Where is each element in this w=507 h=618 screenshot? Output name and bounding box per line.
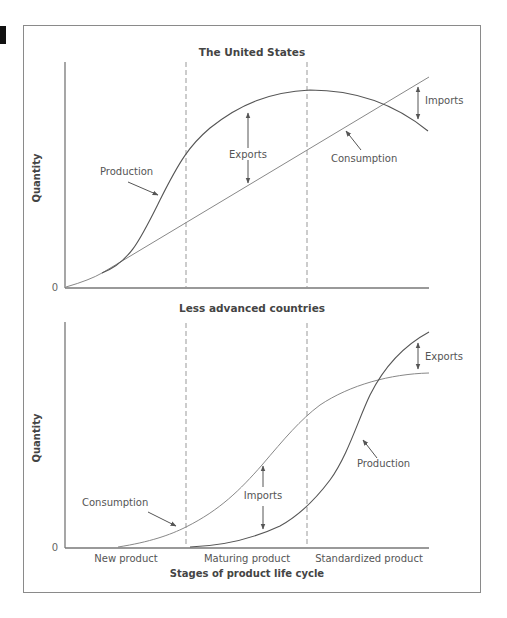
bottom-production-pointer: [363, 440, 377, 458]
bottom-exports-label: Exports: [425, 351, 463, 362]
bottom-consumption-label: Consumption: [82, 497, 148, 508]
top-y-axis-label: Quantity: [31, 153, 42, 202]
top-production-curve: [102, 90, 428, 273]
top-exports-label: Exports: [229, 149, 267, 160]
product-life-cycle-diagram: The United States 0 Quantity Exports Imp…: [0, 0, 507, 618]
x-axis-stages: New product Maturing product Standardize…: [94, 553, 423, 579]
stage-label-new: New product: [94, 553, 158, 564]
bottom-production-curve: [190, 332, 429, 547]
top-consumption-label: Consumption: [331, 153, 397, 164]
bottom-y-axis-label: Quantity: [31, 413, 42, 462]
bottom-consumption-pointer: [148, 512, 176, 526]
stage-label-maturing: Maturing product: [204, 553, 290, 564]
bottom-panel-title: Less advanced countries: [179, 302, 325, 314]
bottom-panel: Less advanced countries 0 Quantity Impor…: [31, 302, 463, 553]
bottom-origin-label: 0: [52, 542, 58, 553]
top-consumption-pointer: [346, 131, 361, 150]
x-axis-title: Stages of product life cycle: [170, 568, 325, 579]
top-panel: The United States 0 Quantity Exports Imp…: [31, 46, 463, 293]
stage-label-standardized: Standardized product: [315, 553, 423, 564]
top-panel-title: The United States: [199, 46, 305, 58]
bottom-production-label: Production: [357, 458, 410, 469]
top-production-label: Production: [100, 166, 153, 177]
top-origin-label: 0: [52, 282, 58, 293]
top-imports-label: Imports: [425, 95, 463, 106]
top-production-pointer: [128, 182, 158, 195]
bottom-imports-label: Imports: [244, 490, 282, 501]
